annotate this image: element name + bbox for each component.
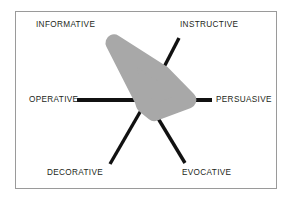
radar-polygon bbox=[114, 43, 188, 113]
radar-series-profile bbox=[114, 43, 188, 113]
axis-label-operative: OPERATIVE bbox=[29, 96, 78, 104]
axis-label-persuasive: PERSUASIVE bbox=[216, 96, 272, 104]
axis-label-informative: INFORMATIVE bbox=[36, 21, 95, 29]
axis-label-decorative: DECORATIVE bbox=[47, 169, 103, 177]
axis-label-instructive: INSTRUCTIVE bbox=[180, 21, 238, 29]
diagram-page: INFORMATIVE INSTRUCTIVE OPERATIVE PERSUA… bbox=[0, 0, 294, 204]
axis-label-evocative: EVOCATIVE bbox=[182, 169, 231, 177]
